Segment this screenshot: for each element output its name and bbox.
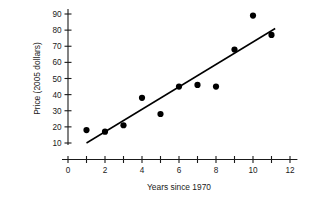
y-axis-title: Price (2005 dollars) [32,42,42,115]
y-tick-label: 20 [52,123,62,132]
data-point [139,95,145,101]
data-point [213,83,219,89]
y-tick-label: 70 [52,42,62,51]
scatter-plot-figure: 102030405060708090024681012Years since 1… [0,0,310,207]
data-point [157,111,163,117]
x-tick-label: 2 [103,166,108,175]
y-tick-label: 90 [52,10,62,19]
data-point [194,82,200,88]
data-point [268,32,274,38]
y-tick-label: 80 [52,26,62,35]
data-point [250,13,256,19]
x-tick-label: 8 [214,166,219,175]
data-point [176,83,182,89]
y-tick-label: 60 [52,58,62,67]
data-point [120,122,126,128]
y-tick-label: 30 [52,107,62,116]
x-tick-label: 10 [248,166,258,175]
data-point [102,129,108,135]
x-tick-label: 6 [177,166,182,175]
x-axis-title: Years since 1970 [147,182,211,192]
x-tick-label: 4 [140,166,145,175]
data-point [83,127,89,133]
y-tick-label: 40 [52,91,62,100]
plot-area: 102030405060708090024681012Years since 1… [0,0,310,207]
data-point [231,46,237,52]
y-tick-label: 10 [52,139,62,148]
x-tick-label: 12 [285,166,295,175]
x-tick-label: 0 [66,166,71,175]
y-tick-label: 50 [52,75,62,84]
